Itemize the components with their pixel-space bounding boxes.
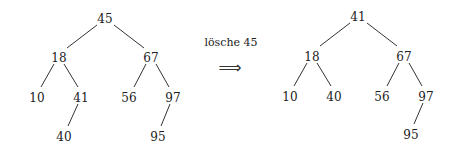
tree-edge — [134, 64, 146, 87]
tree-node: 40 — [56, 130, 71, 144]
tree-node: 10 — [282, 90, 297, 104]
tree-node: 97 — [165, 91, 180, 105]
tree-node: 56 — [121, 91, 136, 105]
tree-edge — [414, 103, 423, 124]
tree-node: 95 — [403, 128, 418, 142]
tree-edge — [64, 64, 78, 87]
tree-node: 40 — [326, 90, 341, 104]
tree-node: 97 — [418, 90, 433, 104]
tree-node: 56 — [374, 90, 389, 104]
tree-edge — [320, 23, 350, 46]
tree-node: 41 — [73, 91, 88, 105]
tree-edge — [367, 23, 397, 46]
operation-caption: lösche 45 — [196, 36, 266, 49]
tree-edge — [317, 63, 331, 86]
tree-edge — [387, 63, 399, 86]
tree-node: 10 — [29, 91, 44, 105]
tree-node: 41 — [350, 10, 365, 24]
tree-edge — [294, 63, 307, 86]
tree-edge — [114, 25, 144, 48]
tree-edge — [41, 64, 54, 87]
tree-edge — [161, 104, 170, 126]
tree-node: 95 — [150, 130, 165, 144]
tree-edge — [68, 104, 78, 126]
tree-edge — [156, 64, 169, 87]
tree-node: 67 — [143, 51, 158, 65]
tree-node: 18 — [304, 50, 319, 64]
tree-node: 45 — [97, 12, 112, 26]
tree-edge — [409, 63, 422, 86]
tree-edge — [67, 25, 97, 48]
implies-arrow-icon: ⟹ — [217, 58, 243, 77]
tree-node: 18 — [51, 51, 66, 65]
tree-node: 67 — [396, 50, 411, 64]
